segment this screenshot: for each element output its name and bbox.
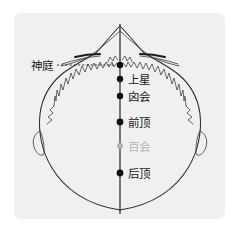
xinhui-label: 囟会 <box>128 90 151 104</box>
qianding-label: 前顶 <box>128 116 151 130</box>
shangxing-label: 上星 <box>128 73 151 87</box>
xinhui-dot[interactable] <box>117 93 123 99</box>
acupoint-xinhui[interactable]: 囟会 <box>117 90 152 104</box>
baihui-dot[interactable] <box>117 143 123 149</box>
acupoint-shangxing[interactable]: 上星 <box>117 73 151 87</box>
baihui-label: 百会 <box>128 140 151 154</box>
shenting-dot[interactable] <box>117 62 123 68</box>
qianding-dot[interactable] <box>117 119 124 126</box>
acupoint-shenting[interactable]: 神庭 <box>31 59 123 73</box>
shangxing-dot[interactable] <box>117 76 123 82</box>
shenting-label: 神庭 <box>31 59 54 73</box>
acupoint-qianding[interactable]: 前顶 <box>117 116 152 130</box>
acupoint-houding[interactable]: 后顶 <box>117 167 152 181</box>
acupoint-overlay: 神庭 上星 囟会 前顶 百会 后顶 <box>0 0 240 233</box>
acupuncture-head-diagram: 神庭 上星 囟会 前顶 百会 后顶 <box>0 0 240 233</box>
acupoint-baihui[interactable]: 百会 <box>117 140 151 154</box>
houding-dot[interactable] <box>117 170 124 177</box>
houding-label: 后顶 <box>128 167 151 181</box>
